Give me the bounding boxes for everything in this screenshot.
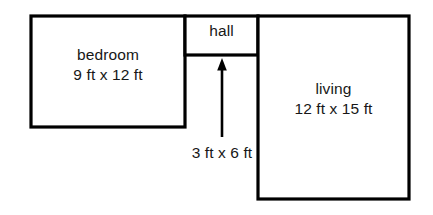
living-label: living 12 ft x 15 ft: [258, 79, 409, 120]
hall-label: hall: [185, 21, 258, 41]
living-name: living: [258, 79, 409, 99]
hall-dimension-arrow: [217, 58, 227, 137]
hall-dimensions-annotation: 3 ft x 6 ft: [148, 143, 296, 163]
bedroom-name: bedroom: [31, 45, 185, 65]
hall-name: hall: [185, 21, 258, 41]
bedroom-label: bedroom 9 ft x 12 ft: [31, 45, 185, 86]
floor-plan-diagram: bedroom 9 ft x 12 ft hall living 12 ft x…: [0, 0, 433, 215]
living-dimensions: 12 ft x 15 ft: [258, 99, 409, 119]
bedroom-dimensions: 9 ft x 12 ft: [31, 65, 185, 85]
